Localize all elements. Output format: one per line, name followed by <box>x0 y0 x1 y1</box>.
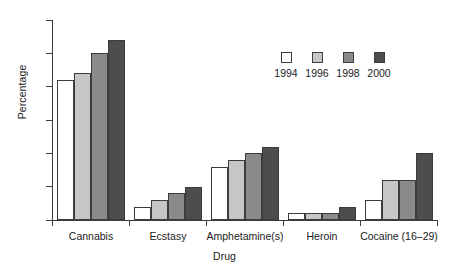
x-axis-tick <box>283 220 284 226</box>
bar <box>151 200 168 220</box>
bar <box>57 80 74 220</box>
bar <box>74 73 91 220</box>
y-axis-tick <box>46 53 52 54</box>
x-axis-line <box>52 220 437 221</box>
legend-swatch <box>343 52 354 63</box>
bar <box>382 180 399 220</box>
x-axis-category-label: Cannabis <box>69 230 113 242</box>
bar <box>91 53 108 220</box>
bar <box>339 207 356 220</box>
bar <box>108 40 125 220</box>
x-axis-tick <box>360 220 361 226</box>
y-axis-tick <box>46 153 52 154</box>
bar <box>262 147 279 220</box>
bar <box>305 213 322 220</box>
chart-legend: 1994199619982000 <box>272 52 396 84</box>
bar <box>322 213 339 220</box>
x-axis-title: Drug <box>0 250 449 262</box>
y-axis-tick <box>46 86 52 87</box>
bar-chart: Percentage 051015202530 CannabisEcstasyA… <box>0 0 449 276</box>
bar <box>211 167 228 220</box>
x-axis-category-label: Cocaine (16–29) <box>360 230 438 242</box>
bar <box>134 207 151 220</box>
y-axis-tick <box>46 20 52 21</box>
x-axis-tick <box>206 220 207 226</box>
legend-swatch <box>374 52 385 63</box>
x-axis-category-label: Heroin <box>307 230 338 242</box>
bar <box>416 153 433 220</box>
y-axis-line <box>52 20 53 220</box>
x-axis-tick <box>437 220 438 226</box>
bar <box>228 160 245 220</box>
bar <box>365 200 382 220</box>
bar <box>245 153 262 220</box>
legend-label: 1994 <box>274 67 297 79</box>
legend-label: 1998 <box>336 67 359 79</box>
x-axis-tick <box>129 220 130 226</box>
bar <box>185 187 202 220</box>
legend-swatch <box>281 52 292 63</box>
bar <box>288 213 305 220</box>
legend-swatch <box>312 52 323 63</box>
legend-label: 2000 <box>367 67 390 79</box>
x-axis-category-label: Amphetamine(s) <box>206 230 283 242</box>
x-axis-category-label: Ecstasy <box>150 230 187 242</box>
y-axis-tick <box>46 186 52 187</box>
x-axis-tick <box>52 220 53 226</box>
bar <box>168 193 185 220</box>
y-axis-tick <box>46 120 52 121</box>
legend-label: 1996 <box>305 67 328 79</box>
y-axis-title: Percentage <box>16 32 28 152</box>
bar <box>399 180 416 220</box>
